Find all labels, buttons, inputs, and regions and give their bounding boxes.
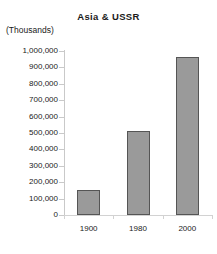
x-axis-line — [64, 215, 212, 216]
y-tick-mark — [59, 67, 65, 68]
y-tick-mark — [59, 100, 65, 101]
y-tick-label: 300,000 — [29, 162, 58, 170]
y-tick-mark — [59, 84, 65, 85]
y-tick-mark — [59, 199, 65, 200]
y-tick-label: 200,000 — [29, 178, 58, 186]
bar-chart: Asia & USSR (Thousands) 0100,000200,0003… — [0, 0, 217, 254]
y-tick-label: 100,000 — [29, 195, 58, 203]
x-tick-label: 2000 — [163, 224, 212, 233]
y-tick-label: 800,000 — [29, 80, 58, 88]
chart-title: Asia & USSR — [0, 11, 217, 22]
y-tick-mark — [59, 182, 65, 183]
y-tick-mark — [59, 166, 65, 167]
y-tick-mark — [59, 133, 65, 134]
y-tick-label: 900,000 — [29, 63, 58, 71]
y-tick-mark — [59, 51, 65, 52]
y-tick-label: 700,000 — [29, 96, 58, 104]
x-tick-label: 1900 — [64, 224, 113, 233]
x-tick-mark — [113, 215, 114, 219]
x-tick-label: 1980 — [113, 224, 162, 233]
x-tick-mark — [212, 215, 213, 219]
x-tick-mark — [163, 215, 164, 219]
x-tick-mark — [64, 215, 65, 219]
y-tick-mark — [59, 149, 65, 150]
y-tick-mark — [59, 117, 65, 118]
bar — [127, 131, 150, 215]
bar — [176, 57, 199, 215]
y-tick-label: 0 — [54, 211, 58, 219]
y-tick-label: 400,000 — [29, 145, 58, 153]
y-tick-label: 600,000 — [29, 113, 58, 121]
y-tick-label: 500,000 — [29, 129, 58, 137]
bar — [77, 190, 100, 215]
y-tick-label: 1,000,000 — [22, 47, 58, 55]
y-axis-units-label: (Thousands) — [6, 25, 54, 35]
